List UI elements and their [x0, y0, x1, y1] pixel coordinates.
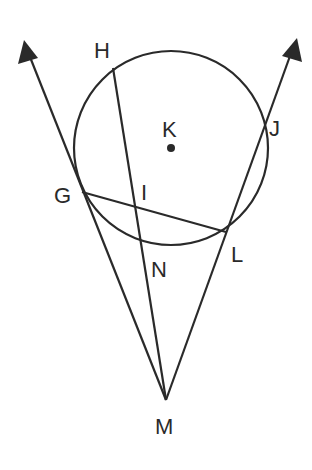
label-j: J: [269, 116, 280, 141]
label-k: K: [162, 117, 177, 142]
chord-g-l: [82, 192, 226, 232]
label-m: M: [155, 414, 173, 439]
label-n: N: [151, 257, 167, 282]
ray-m-j: [166, 56, 290, 400]
arrowhead-right-icon: [282, 38, 302, 62]
label-h: H: [94, 38, 110, 63]
label-l: L: [231, 242, 243, 267]
label-i: I: [141, 180, 147, 205]
diagram-canvas: H K J G I L N M: [0, 0, 312, 470]
arrowhead-left-icon: [18, 40, 38, 64]
geometry-diagram: H K J G I L N M: [0, 0, 312, 470]
segment-h-m: [113, 68, 166, 400]
ray-m-g: [30, 57, 166, 400]
label-g: G: [54, 183, 71, 208]
center-point-k: [167, 144, 175, 152]
